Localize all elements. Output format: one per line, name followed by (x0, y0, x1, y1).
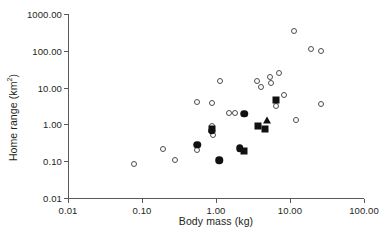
x-tick-mark (364, 199, 365, 203)
y-tick-mark (64, 51, 68, 52)
y-tick-label: 100.00 (32, 45, 62, 56)
data-point-filled-circle (215, 157, 223, 165)
data-point-open-circle (308, 46, 314, 52)
y-tick-mark (64, 88, 68, 89)
data-point-open-circle (291, 28, 297, 34)
data-point-filled-circle (240, 110, 248, 118)
data-point-filled-square (262, 126, 269, 133)
y-axis-label-superscript: 2 (6, 78, 13, 82)
data-point-open-circle (281, 92, 287, 98)
data-point-open-circle (209, 100, 215, 106)
scatter-plot-figure: Home range (km2) 0.010.101.0010.00100.00… (0, 0, 387, 235)
y-axis-label: Home range (km2) (2, 0, 18, 235)
data-point-open-circle (267, 74, 273, 80)
data-point-open-circle (131, 161, 137, 167)
y-tick-label: 1000.00 (27, 9, 62, 20)
data-point-filled-circle (194, 141, 202, 149)
y-tick-mark (64, 161, 68, 162)
data-point-open-circle (318, 101, 324, 107)
y-tick-label: 1.00 (43, 119, 62, 130)
y-axis-line (68, 14, 69, 199)
data-point-open-circle (254, 78, 260, 84)
data-point-open-circle (172, 157, 178, 163)
data-point-open-circle (318, 48, 324, 54)
data-point-filled-square (208, 126, 215, 133)
data-point-filled-square (272, 96, 279, 103)
data-point-open-circle (273, 103, 279, 109)
x-tick-mark (290, 199, 291, 203)
x-axis-label: Body mass (kg) (68, 215, 364, 227)
data-point-open-circle (276, 70, 282, 76)
x-tick-mark (68, 199, 69, 203)
y-tick-label: 10.00 (38, 82, 62, 93)
data-point-filled-square (241, 147, 248, 154)
x-tick-mark (216, 199, 217, 203)
y-tick-label: 0.01 (43, 193, 62, 204)
data-point-open-circle (293, 117, 299, 123)
x-tick-mark (142, 199, 143, 203)
data-point-open-circle (258, 84, 264, 90)
plot-area: 0.010.101.0010.00100.001000.00 0.010.101… (68, 14, 364, 198)
data-point-filled-triangle (263, 117, 271, 124)
data-point-open-circle (194, 99, 200, 105)
data-point-open-circle (217, 78, 223, 84)
data-point-filled-square (255, 123, 262, 130)
data-point-open-circle (268, 80, 274, 86)
y-tick-mark (64, 14, 68, 15)
data-point-open-circle (232, 110, 238, 116)
y-tick-mark (64, 124, 68, 125)
data-point-open-circle (160, 146, 166, 152)
y-tick-label: 0.10 (43, 156, 62, 167)
